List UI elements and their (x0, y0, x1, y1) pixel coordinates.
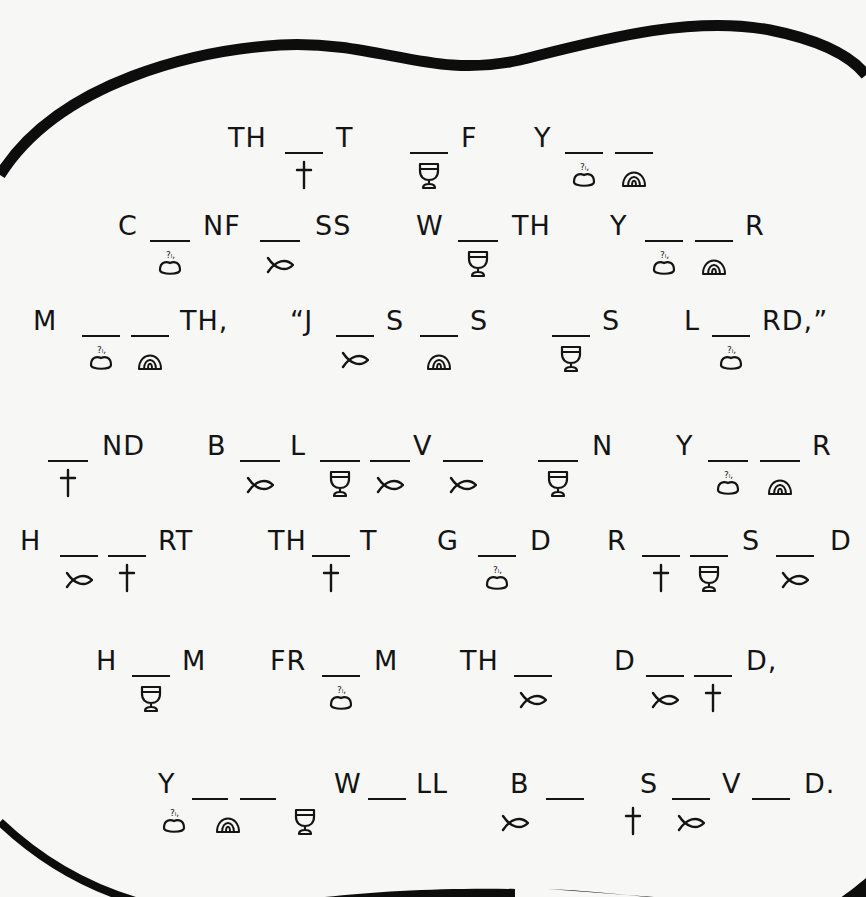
letter-blank[interactable] (312, 555, 350, 557)
bread-icon: ?ₗ, (714, 468, 742, 498)
letters: TH (460, 645, 499, 677)
cross-icon (619, 806, 647, 836)
letter-blank[interactable] (410, 152, 448, 154)
bread-icon: ?ₗ, (483, 563, 511, 593)
letter-blank[interactable] (615, 152, 653, 154)
rainbow-icon (425, 343, 453, 373)
letter-blank[interactable] (150, 240, 190, 242)
letter-blank[interactable] (132, 675, 170, 677)
letter-blank[interactable] (694, 675, 732, 677)
letters: L (684, 305, 700, 337)
svg-text:?ₗ,: ?ₗ, (493, 565, 502, 575)
letters: C (118, 210, 138, 242)
letters: RT (158, 525, 193, 557)
letter-blank[interactable] (443, 460, 483, 462)
letters: RD,” (762, 305, 828, 337)
letter-blank[interactable] (695, 240, 733, 242)
rainbow-icon (766, 468, 794, 498)
letter-blank[interactable] (514, 675, 552, 677)
letter-blank[interactable] (240, 798, 276, 800)
cross-icon (290, 160, 318, 190)
fish-icon (651, 683, 679, 713)
letter-blank[interactable] (420, 335, 458, 337)
letter-blank[interactable] (82, 335, 120, 337)
letter-blank[interactable] (538, 460, 578, 462)
letter-blank[interactable] (336, 335, 374, 337)
letters: SS (315, 210, 351, 242)
letter-blank[interactable] (776, 555, 814, 557)
bread-icon: ?ₗ, (717, 343, 745, 373)
fish-icon (376, 468, 404, 498)
puzzle-row: HRTTHTG?ₗ,DRSD (0, 525, 866, 605)
letter-blank[interactable] (320, 460, 360, 462)
letter-blank[interactable] (370, 460, 410, 462)
letters: V (722, 768, 741, 800)
svg-text:?ₗ,: ?ₗ, (660, 250, 669, 260)
letter-blank[interactable] (478, 555, 516, 557)
rainbow-icon (700, 248, 728, 278)
letters: TH (228, 122, 267, 154)
chalice-icon (464, 248, 492, 278)
letters: D (830, 525, 852, 557)
letter-blank[interactable] (645, 240, 683, 242)
chalice-icon (326, 468, 354, 498)
letter-blank[interactable] (708, 460, 748, 462)
letter-blank[interactable] (565, 152, 603, 154)
letter-blank[interactable] (60, 555, 98, 557)
letter-blank[interactable] (260, 240, 300, 242)
chalice-icon (415, 160, 443, 190)
bread-icon: ?ₗ, (160, 806, 188, 836)
puzzle-row: THTFY?ₗ, (0, 122, 866, 202)
letter-blank[interactable] (690, 555, 728, 557)
letters: M (374, 645, 398, 677)
chalice-icon (291, 806, 319, 836)
letters: S (386, 305, 404, 337)
chalice-icon (137, 683, 165, 713)
fish-icon (501, 806, 529, 836)
letters: D, (746, 645, 777, 677)
letter-blank[interactable] (368, 798, 406, 800)
letters: N (592, 430, 613, 462)
letters: TH (512, 210, 551, 242)
svg-text:?ₗ,: ?ₗ, (724, 470, 733, 480)
letters: D. (804, 768, 835, 800)
letters: LL (416, 768, 448, 800)
letter-blank[interactable] (458, 240, 498, 242)
letter-blank[interactable] (552, 335, 590, 337)
letters: “J (290, 305, 313, 337)
letters: V (413, 430, 432, 462)
fish-icon (781, 563, 809, 593)
letter-blank[interactable] (131, 335, 169, 337)
letter-blank[interactable] (712, 335, 750, 337)
svg-text:?ₗ,: ?ₗ, (580, 162, 589, 172)
letter-blank[interactable] (672, 798, 710, 800)
cross-icon (647, 563, 675, 593)
letter-blank[interactable] (48, 460, 88, 462)
fish-icon (677, 806, 705, 836)
letters: ND (102, 430, 145, 462)
bread-icon: ?ₗ, (570, 160, 598, 190)
fish-icon (65, 563, 93, 593)
cross-icon (54, 468, 82, 498)
letter-blank[interactable] (108, 555, 146, 557)
letters: S (470, 305, 488, 337)
letters: F (461, 122, 478, 154)
letters: W (334, 768, 362, 800)
cross-icon (317, 563, 345, 593)
letters: M (33, 305, 57, 337)
svg-text:?ₗ,: ?ₗ, (166, 250, 175, 260)
letter-blank[interactable] (546, 798, 584, 800)
frame-border-bottom (270, 889, 515, 897)
letter-blank[interactable] (322, 675, 360, 677)
fish-icon (246, 468, 274, 498)
svg-text:?ₗ,: ?ₗ, (727, 345, 736, 355)
letter-blank[interactable] (642, 555, 680, 557)
letters: L (290, 430, 306, 462)
letter-blank[interactable] (240, 460, 280, 462)
letter-blank[interactable] (285, 152, 323, 154)
letter-blank[interactable] (752, 798, 790, 800)
letters: W (416, 210, 444, 242)
letter-blank[interactable] (646, 675, 684, 677)
letter-blank[interactable] (760, 460, 800, 462)
letter-blank[interactable] (192, 798, 228, 800)
